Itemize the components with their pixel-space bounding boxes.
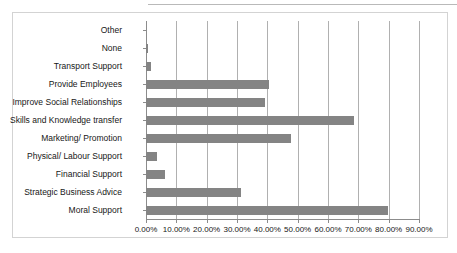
bar (146, 80, 269, 89)
chart-row: Improve Social Relationships (13, 93, 447, 111)
category-label: Skills and Knowledge transfer (0, 115, 122, 125)
bar (146, 170, 165, 179)
value-axis-label: 60.00% (314, 224, 341, 236)
value-axis-label: 50.00% (284, 224, 311, 236)
axis-tick-70.00% (358, 219, 359, 223)
value-axis-label: 20.00% (193, 224, 220, 236)
axis-tick-80.00% (389, 219, 390, 223)
category-label: None (0, 43, 122, 53)
axis-tick-40.00% (267, 219, 268, 223)
category-label: Physical/ Labour Support (0, 151, 122, 161)
chart-frame: OtherNoneTransport SupportProvide Employ… (12, 12, 448, 238)
chart-row: Provide Employees (13, 75, 447, 93)
category-label: Strategic Business Advice (0, 187, 122, 197)
bar (146, 152, 157, 161)
bar (146, 44, 148, 53)
chart-row: Transport Support (13, 57, 447, 75)
chart-row: Skills and Knowledge transfer (13, 111, 447, 129)
bar (146, 188, 241, 197)
axis-tick-50.00% (298, 219, 299, 223)
page-header-rule (148, 4, 457, 5)
value-axis-label: 90.00% (405, 224, 432, 236)
bar (146, 98, 265, 107)
value-axis-label: 40.00% (254, 224, 281, 236)
value-axis-label: 80.00% (375, 224, 402, 236)
chart-row: Strategic Business Advice (13, 183, 447, 201)
axis-tick-60.00% (328, 219, 329, 223)
value-axis-line (146, 219, 419, 220)
chart-row: Financial Support (13, 165, 447, 183)
chart-row: Physical/ Labour Support (13, 147, 447, 165)
category-label: Other (0, 25, 122, 35)
chart-rows: OtherNoneTransport SupportProvide Employ… (13, 21, 447, 219)
axis-tick-10.00% (176, 219, 177, 223)
chart-row: None (13, 39, 447, 57)
category-label: Transport Support (0, 61, 122, 71)
value-axis-label: 30.00% (223, 224, 250, 236)
category-label: Marketing/ Promotion (0, 133, 122, 143)
bar (146, 62, 151, 71)
category-label: Financial Support (0, 169, 122, 179)
bar (146, 116, 354, 125)
chart-row: Marketing/ Promotion (13, 129, 447, 147)
chart-row: Other (13, 21, 447, 39)
category-label: Provide Employees (0, 79, 122, 89)
chart-row: Moral Support (13, 201, 447, 219)
category-tick (143, 30, 146, 31)
axis-tick-0.00% (146, 219, 147, 223)
value-axis-labels: 0.00%10.00%20.00%30.00%40.00%50.00%60.00… (146, 224, 419, 238)
axis-tick-30.00% (237, 219, 238, 223)
value-axis-label: 70.00% (345, 224, 372, 236)
category-label: Moral Support (0, 205, 122, 215)
axis-tick-20.00% (207, 219, 208, 223)
bar (146, 206, 388, 215)
axis-tick-90.00% (419, 219, 420, 223)
category-label: Improve Social Relationships (0, 97, 122, 107)
value-axis-label: 0.00% (135, 224, 158, 236)
bar (146, 134, 291, 143)
value-axis-label: 10.00% (163, 224, 190, 236)
